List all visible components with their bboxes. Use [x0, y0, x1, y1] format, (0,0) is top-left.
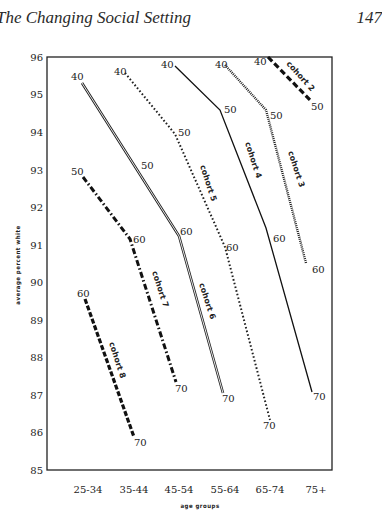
svg-text:70: 70: [313, 391, 326, 402]
y-tick: 89: [30, 315, 43, 326]
svg-text:cohort 7: cohort 7: [150, 270, 170, 309]
svg-text:50: 50: [71, 166, 84, 177]
x-axis-ticks: 25-34 35-44 45-54 55-64 65-74 75+: [74, 484, 327, 495]
svg-text:50: 50: [311, 101, 324, 112]
y-tick: 86: [30, 427, 43, 438]
y-tick: 93: [30, 165, 43, 176]
svg-text:60: 60: [77, 288, 90, 299]
x-tick: 35-44: [120, 484, 149, 495]
x-tick: 75+: [305, 484, 326, 495]
y-tick: 90: [30, 277, 43, 288]
plot-frame: [47, 57, 332, 470]
svg-text:cohort 5: cohort 5: [198, 164, 218, 203]
y-axis-label: average percent white: [14, 225, 22, 304]
y-tick: 94: [30, 127, 43, 138]
svg-text:cohort 2: cohort 2: [285, 59, 317, 93]
series-cohort-5: 40 50 60 70 cohort 5: [114, 66, 276, 431]
svg-text:70: 70: [222, 393, 235, 404]
svg-text:cohort 4: cohort 4: [243, 141, 263, 180]
y-tick: 92: [30, 202, 43, 213]
y-tick: 95: [30, 89, 43, 100]
svg-text:70: 70: [134, 437, 147, 448]
svg-text:50: 50: [141, 160, 154, 171]
svg-text:60: 60: [226, 242, 239, 253]
svg-text:60: 60: [312, 264, 325, 275]
x-tick: 45-54: [165, 484, 194, 495]
svg-text:cohort 3: cohort 3: [286, 150, 306, 189]
svg-text:70: 70: [263, 420, 276, 431]
svg-text:50: 50: [270, 110, 283, 121]
svg-text:40: 40: [114, 66, 127, 77]
svg-text:40: 40: [161, 59, 174, 70]
svg-text:40: 40: [254, 56, 267, 67]
y-tick: 96: [30, 52, 43, 63]
y-tick: 87: [30, 390, 43, 401]
series-cohort-8: 60 70 cohort 8: [77, 288, 147, 448]
svg-text:40: 40: [71, 71, 84, 82]
y-tick: 91: [30, 240, 43, 251]
series-cohort-7: 50 60 70 cohort 7: [71, 166, 188, 394]
x-tick: 65-74: [256, 484, 285, 495]
y-tick: 85: [30, 465, 43, 476]
svg-text:50: 50: [224, 104, 237, 115]
svg-text:40: 40: [215, 59, 228, 70]
y-axis-ticks: 96 95 94 93 92 91 90 89 88 87 86 85: [30, 52, 43, 476]
svg-text:60: 60: [273, 233, 286, 244]
svg-text:50: 50: [178, 127, 191, 138]
x-axis-label: age groups: [180, 502, 219, 510]
svg-text:70: 70: [175, 383, 188, 394]
series-cohort-2: 40 50 cohort 2: [254, 56, 324, 112]
series-cohort-6: 40 50 60 70 cohort 6: [71, 71, 235, 404]
x-tick: 25-34: [74, 484, 103, 495]
svg-text:60: 60: [180, 226, 193, 237]
svg-text:60: 60: [133, 234, 146, 245]
y-tick: 88: [30, 352, 43, 363]
x-tick: 55-64: [211, 484, 240, 495]
